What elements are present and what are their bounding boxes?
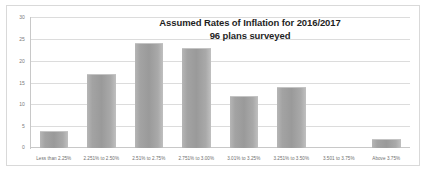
- y-tick-label: 30: [19, 14, 25, 20]
- y-tick-label: 10: [19, 101, 25, 107]
- x-tick-label: Above 3.75%: [363, 153, 411, 165]
- y-tick-label: 25: [19, 36, 25, 42]
- bar: [277, 87, 306, 148]
- y-tick-label: 5: [22, 123, 25, 129]
- bar: [182, 48, 211, 148]
- x-tick-label: 3.01% to 3.25%: [220, 153, 268, 165]
- x-tick-label: 3.501 to 3.75%: [315, 153, 363, 165]
- y-tick-label: 0: [22, 144, 25, 150]
- x-tick-label: 2.751% to 3.00%: [173, 153, 221, 165]
- x-tick-label: 3.251% to 3.50%: [268, 153, 316, 165]
- y-axis-tick-labels: 30 25 20 15 10 5 0: [7, 17, 28, 148]
- bar: [372, 139, 401, 148]
- y-axis-line: [30, 17, 31, 149]
- bar: [135, 43, 164, 148]
- bar: [40, 131, 69, 148]
- y-tick-label: 15: [19, 80, 25, 86]
- chart-title-line1: Assumed Rates of Inflation for 2016/2017: [159, 17, 340, 28]
- bar: [87, 74, 116, 148]
- x-tick-label: Less than 2.25%: [30, 153, 78, 165]
- x-tick-label: 2.251% to 2.50%: [78, 153, 126, 165]
- x-axis-tick-labels: Less than 2.25% 2.251% to 2.50% 2.51% to…: [30, 153, 410, 165]
- x-tick-label: 2.51% to 2.75%: [125, 153, 173, 165]
- bar-slot: [78, 17, 126, 148]
- chart-container: 30 25 20 15 10 5 0 Assumed Rates of Infl…: [6, 5, 420, 166]
- chart-subtitle: 96 plans surveyed: [125, 29, 375, 42]
- chart-title: Assumed Rates of Inflation for 2016/2017…: [125, 16, 375, 42]
- bar: [230, 96, 259, 148]
- bar-slot: [30, 17, 78, 148]
- y-tick-label: 20: [19, 58, 25, 64]
